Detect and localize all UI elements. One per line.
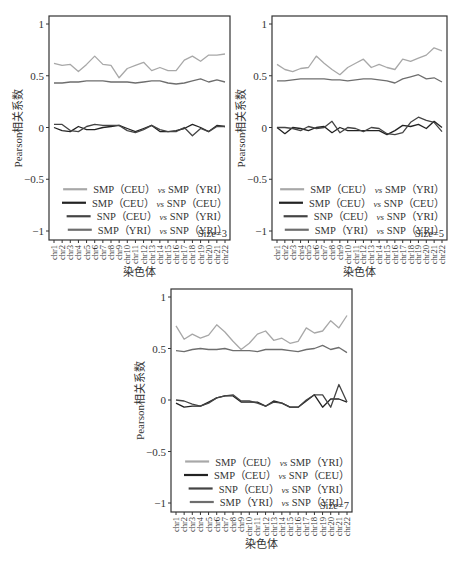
legend-item-label: SMP（CEU） vs SNP（CEU）: [309, 198, 444, 209]
y-axis-label: Pearson相关系数: [133, 361, 146, 440]
legend-item-label: SMP（CEU） vs SMP（YRI）: [310, 184, 444, 195]
data-series-line: [277, 121, 442, 134]
y-tick-label: 0.5: [253, 70, 267, 82]
data-series-line: [277, 75, 442, 83]
y-tick-label: 0: [262, 122, 268, 134]
legend-item-label: SMP（CEU） vs SNP（CEU）: [214, 470, 349, 481]
y-tick-label: 0.5: [152, 343, 166, 355]
size-annotation: Size=3: [198, 228, 227, 239]
x-axis-label: 染色体: [343, 265, 376, 278]
legend-item-label: SNP（CEU） vs SNP（YRI）: [219, 484, 349, 495]
x-axis-label: 染色体: [245, 537, 278, 550]
chart-panel-size-7: 10.50−0.5−1Pearson相关系数chr1chr2chr3chr4ch…: [115, 280, 355, 565]
legend-item-label: SNP（CEU） vs SNP（YRI）: [97, 211, 227, 222]
chart-panel-size-5: 10.50−0.5−1Pearson相关系数chr1chr2chr3chr4ch…: [231, 0, 462, 280]
y-tick-label: −0.5: [146, 446, 166, 458]
y-tick-label: 0.5: [30, 70, 44, 82]
y-tick-label: −0.5: [247, 173, 267, 185]
legend-item-label: SMP（CEU） vs SNP（CEU）: [92, 198, 227, 209]
y-tick-label: 0: [39, 122, 45, 134]
x-tick-label: chr22: [437, 245, 447, 264]
y-tick-label: −1: [32, 225, 44, 237]
size-annotation: Size=7: [320, 500, 349, 511]
data-series-line: [176, 345, 347, 352]
legend-item-label: SMP（CEU） vs SMP（YRI）: [215, 457, 349, 468]
y-axis-label: Pearson相关系数: [234, 89, 247, 168]
data-series-line: [277, 117, 442, 135]
x-tick-label: chr22: [342, 517, 352, 536]
data-series-line: [176, 316, 347, 350]
x-tick-label: chr22: [220, 245, 230, 264]
y-tick-label: −1: [154, 497, 166, 509]
y-tick-label: 0: [161, 394, 167, 406]
size-annotation: Size=5: [415, 228, 444, 239]
y-tick-label: 1: [161, 291, 167, 303]
y-tick-label: 1: [262, 18, 268, 30]
chart-panel-size-3: 10.50−0.5−1Pearson相关系数chr1chr2chr3chr4ch…: [0, 0, 231, 280]
y-tick-label: −1: [255, 225, 267, 237]
x-axis-label: 染色体: [123, 265, 156, 278]
legend-item-label: SMP（CEU） vs SMP（YRI）: [93, 184, 227, 195]
y-tick-label: 1: [39, 18, 45, 30]
data-series-line: [54, 79, 225, 84]
y-axis-label: Pearson相关系数: [11, 89, 24, 168]
y-tick-label: −0.5: [24, 173, 44, 185]
legend-item-label: SNP（CEU） vs SNP（YRI）: [314, 211, 444, 222]
data-series-line: [54, 54, 225, 78]
data-series-line: [277, 48, 442, 75]
